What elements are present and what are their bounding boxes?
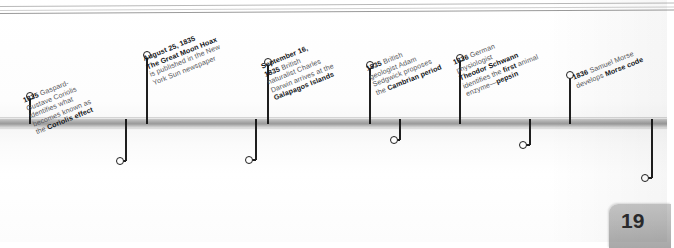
- timeline-leader-morse-code: [569, 75, 571, 121]
- timeline-caption-moon-hoax: August 25, 1835The Great Moon Hoaxis pub…: [142, 27, 225, 87]
- timeline-marker-silurian: [390, 136, 398, 144]
- timeline-caption-morse-code: 1836 Samuel Morsedevelops Morse code: [572, 47, 645, 90]
- timeline-marker-women-astronomers: [116, 157, 124, 165]
- timeline-leader-acetylene: [529, 125, 531, 145]
- timeline-bar-highlight: [0, 118, 667, 119]
- timeline-marker-colt-revolver: [641, 174, 649, 182]
- timeline-leader-colt-revolver: [651, 125, 653, 178]
- page-number: 19: [621, 209, 644, 233]
- timeline-bar: [0, 117, 667, 128]
- timeline-marker-photographic-negative: [245, 156, 253, 164]
- timeline-marker-acetylene: [519, 141, 527, 149]
- timeline-caption-darwin-galapagos: September 16,1835 Britishnaturalist Char…: [260, 38, 338, 103]
- timeline-leader-photographic-negative: [255, 125, 257, 160]
- timeline-leader-silurian: [399, 125, 401, 140]
- timeline-leader-women-astronomers: [125, 125, 127, 161]
- page-number-badge: 19: [609, 204, 671, 248]
- timeline-caption-pepsin: 1836 GermanphysiologistTheodor Schwannid…: [452, 29, 543, 99]
- timeline-caption-cambrian: 1835 Britishgeologist AdamSedgwick propo…: [365, 39, 443, 97]
